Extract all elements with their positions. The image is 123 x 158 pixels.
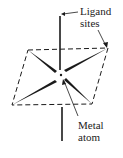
bond-top-left bbox=[28, 50, 57, 73]
bond-top-right bbox=[64, 48, 108, 72]
metal-pointer bbox=[64, 81, 78, 116]
metal-atom bbox=[60, 74, 62, 76]
ligand-pointer-axis bbox=[63, 12, 78, 14]
bond-bottom-left bbox=[12, 80, 57, 105]
metal-label-line1: Metal bbox=[78, 119, 104, 131]
metal-label-line2: atom bbox=[78, 131, 100, 143]
ligand-pointer-corner-arrowhead bbox=[103, 42, 108, 48]
ligand-label-line1: Ligand bbox=[80, 5, 112, 17]
ligand-pointer-axis-arrowhead bbox=[61, 12, 65, 16]
ligand-label-line2: sites bbox=[80, 17, 100, 29]
square-planar-diagram: Ligand sites Metal atom bbox=[0, 0, 123, 158]
